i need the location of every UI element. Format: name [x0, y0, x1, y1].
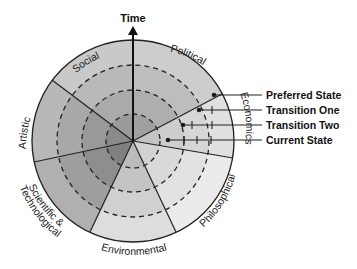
futures-wheel-diagram: Time Social Political Economics Philosop…: [0, 0, 357, 269]
legend-preferred-state: Preferred State: [266, 89, 341, 101]
label-artistic: Artistic: [16, 115, 33, 149]
arrow-up-icon: [128, 26, 138, 35]
label-economics: Economics: [238, 90, 256, 145]
legend: Preferred State Transition One Transitio…: [266, 89, 341, 146]
label-environmental: Environmental: [100, 240, 167, 257]
time-label: Time: [120, 12, 145, 24]
legend-current-state: Current State: [266, 134, 333, 146]
legend-transition-one: Transition One: [266, 104, 340, 116]
legend-transition-two: Transition Two: [266, 119, 339, 131]
